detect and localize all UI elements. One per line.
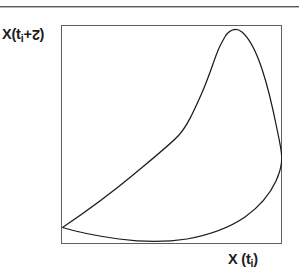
y-label-suffix: )	[40, 26, 45, 42]
trajectory-path	[63, 29, 282, 241]
y-label-plus: +	[23, 26, 31, 42]
x-label-suffix: )	[253, 251, 258, 267]
figure-root: X(ti+2) X (ti)	[0, 0, 299, 278]
y-label-delay: 2	[32, 27, 40, 42]
x-label-prefix: X (t	[228, 251, 251, 267]
x-axis-label: X (ti)	[228, 252, 258, 268]
y-axis-label: X(ti+2)	[2, 27, 44, 43]
y-label-prefix: X(t	[2, 26, 21, 42]
attractor-curve	[61, 25, 282, 244]
page-top-rule-shadow	[0, 7, 299, 8]
